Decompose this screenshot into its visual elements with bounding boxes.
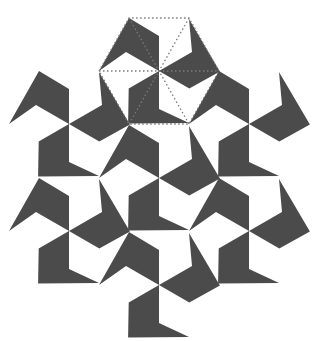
tessellation-figure [0,0,321,341]
